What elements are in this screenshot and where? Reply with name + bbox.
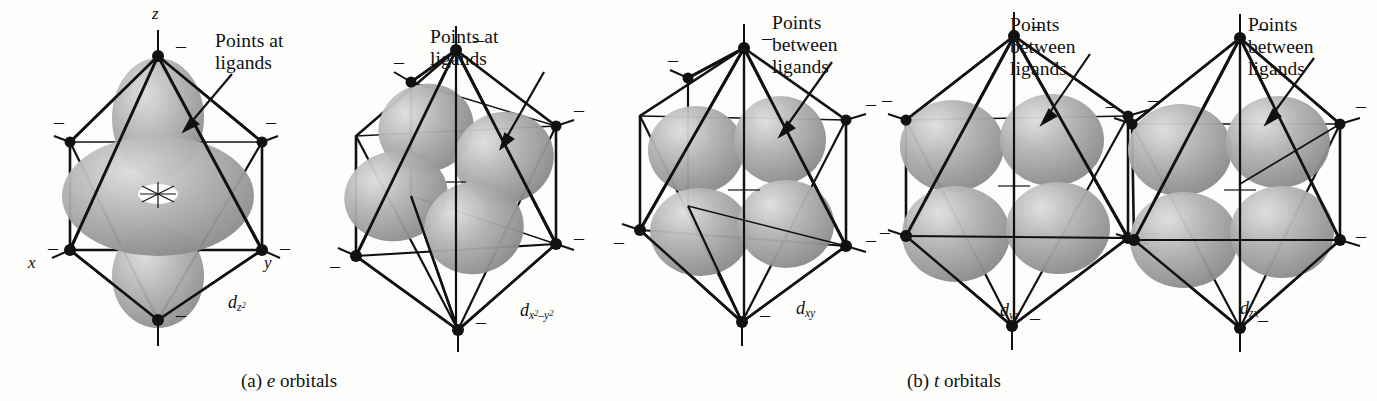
ligand-charge-bottom: – (760, 305, 770, 325)
dx2-y2-lobes (336, 71, 564, 284)
ligand-charge-right-back: – (266, 112, 276, 132)
orbital-sub: xy (805, 307, 815, 319)
orbital-letter: d (520, 300, 529, 320)
axis-label-x: x (28, 253, 36, 273)
orbital-sup2: 2 (549, 308, 553, 318)
caption-b-text: orbitals (939, 370, 1001, 391)
ligand-charge-left-back: – (1106, 96, 1116, 116)
ligand-charge-left-front: – (880, 222, 890, 242)
orbital-label-dyz: dyz (1000, 300, 1019, 321)
ligand-charge-right-front: – (1356, 226, 1366, 246)
orbital-letter: d (1000, 300, 1009, 320)
orbital-label-dz2: dz2 (228, 292, 246, 313)
ligand-charge-right: – (574, 228, 584, 248)
axis-label-z: z (152, 4, 159, 24)
caption-b: (b) t orbitals (888, 348, 1001, 401)
annotation-points-between-ligands-1: Points between ligands (772, 12, 838, 77)
ligand-charge-left-back: – (54, 112, 64, 132)
caption-a-text: orbitals (275, 370, 337, 391)
orbital-label-dzx: dzx (1240, 298, 1259, 319)
ligand-charge-left-front: – (48, 238, 58, 258)
orbital-letter: d (796, 298, 805, 318)
ligand-charge-left-front: – (1104, 226, 1114, 246)
ligand-charge-right-back: – (866, 94, 876, 114)
ligand-charge-right: – (866, 230, 876, 250)
panel-dxy: – – – – – – (604, 0, 889, 360)
axis-label-y: y (264, 253, 272, 273)
caption-a-tag: (a) (241, 370, 262, 391)
panel-dzx: – – – – – – (1098, 0, 1377, 360)
ligand-charge-bottom: – (176, 305, 186, 325)
orbital-sup: 2 (241, 300, 245, 310)
ligand-charge-top: – (762, 28, 772, 48)
ligand-charge-bottom: – (1258, 310, 1268, 330)
orbital-label-dx2-y2: dx2–y2 (520, 300, 553, 321)
dxy-lobes (648, 96, 834, 276)
orbital-sub2: –y (538, 309, 549, 321)
orbital-sub: zx (1249, 307, 1259, 319)
ligand-charge-bottom: – (1030, 308, 1040, 328)
ligand-charge-upper-left: – (394, 52, 404, 72)
ligand-charge-top: – (176, 36, 186, 56)
orbital-label-dxy: dxy (796, 298, 815, 319)
ligand-charge-left: – (330, 256, 340, 276)
ligand-charge-left-back: – (882, 90, 892, 110)
orbital-sub: yz (1009, 309, 1019, 321)
orbital-letter: d (228, 292, 237, 312)
ligand-charge-right-front: – (280, 238, 290, 258)
caption-a: (a) e orbitals (222, 348, 337, 401)
ligand-charge-right-back: – (1356, 96, 1366, 116)
ligand-charge-upper-left: – (668, 50, 678, 70)
annotation-points-between-ligands-3: Points between ligands (1248, 14, 1314, 79)
dzx-illustration (1098, 0, 1377, 360)
annotation-points-between-ligands-2: Points between ligands (1010, 14, 1076, 79)
annotation-points-at-ligands-2: Points at ligands (430, 26, 499, 70)
ligand-charge-right-back: – (574, 100, 584, 120)
ligand-charge-bottom: – (476, 312, 486, 332)
annotation-points-at-ligands-1: Points at ligands (215, 30, 284, 74)
d-orbital-octahedral-field-figure: – – – – – – z x y Points at ligands dz2 (0, 0, 1377, 401)
dxy-illustration (604, 0, 889, 360)
orbital-letter: d (1240, 298, 1249, 318)
caption-b-tag: (b) (907, 370, 929, 391)
ligand-charge-left: – (614, 232, 624, 252)
